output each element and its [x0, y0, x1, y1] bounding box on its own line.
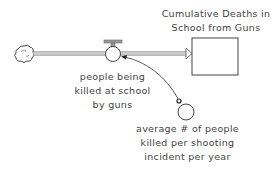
flow-valve[interactable] — [104, 40, 122, 62]
auxiliary-label-line: incident per year — [130, 150, 245, 164]
flow-pipe-outlet — [120, 48, 192, 59]
flow-pipe-inlet — [33, 52, 106, 55]
auxiliary-converter[interactable] — [178, 104, 194, 120]
connector-origin-icon — [177, 99, 181, 103]
cloud-icon[interactable] — [15, 45, 34, 62]
flow-label-line: killed at school — [60, 84, 165, 98]
stock-box[interactable] — [192, 38, 238, 75]
connector-arrowhead-icon — [121, 55, 127, 60]
valve-handle-icon — [104, 40, 122, 43]
flow-label-line: by guns — [60, 98, 165, 112]
stock-label-line: School from Guns — [160, 21, 272, 35]
stock-label: Cumulative Deaths in School from Guns — [160, 7, 272, 35]
flow-arrowhead-icon — [186, 48, 192, 59]
auxiliary-label-line: average # of people — [130, 122, 245, 136]
auxiliary-label: average # of people killed per shooting … — [130, 122, 245, 164]
stock-label-line: Cumulative Deaths in — [160, 7, 272, 21]
valve-circle-icon — [106, 47, 121, 62]
flow-label: people being killed at school by guns — [60, 70, 165, 112]
flow-label-line: people being — [60, 70, 165, 84]
auxiliary-label-line: killed per shooting — [130, 136, 245, 150]
